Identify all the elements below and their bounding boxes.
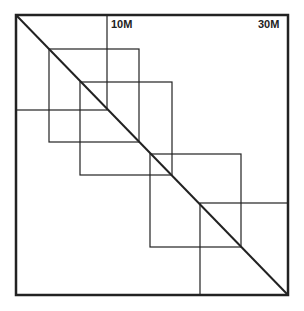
diagonal-line [16,15,288,295]
label-10m: 10M [111,18,132,30]
label-30m: 30M [258,18,279,30]
diagram-canvas [0,0,304,311]
